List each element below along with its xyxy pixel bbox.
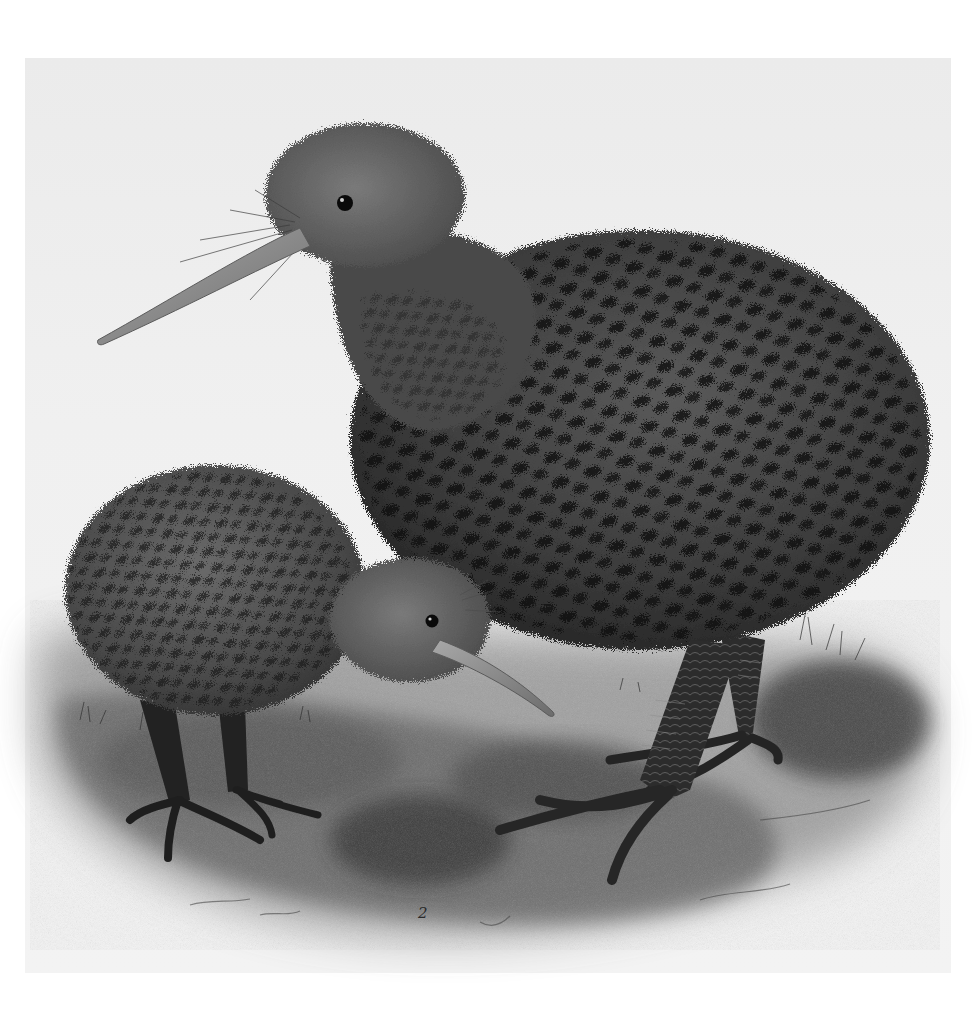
page: 2 [0,0,976,1029]
kiwi-illustration [0,0,976,1029]
large-kiwi-eye [337,195,353,211]
small-kiwi-eye [426,615,439,628]
plate-number: 2 [418,904,428,922]
